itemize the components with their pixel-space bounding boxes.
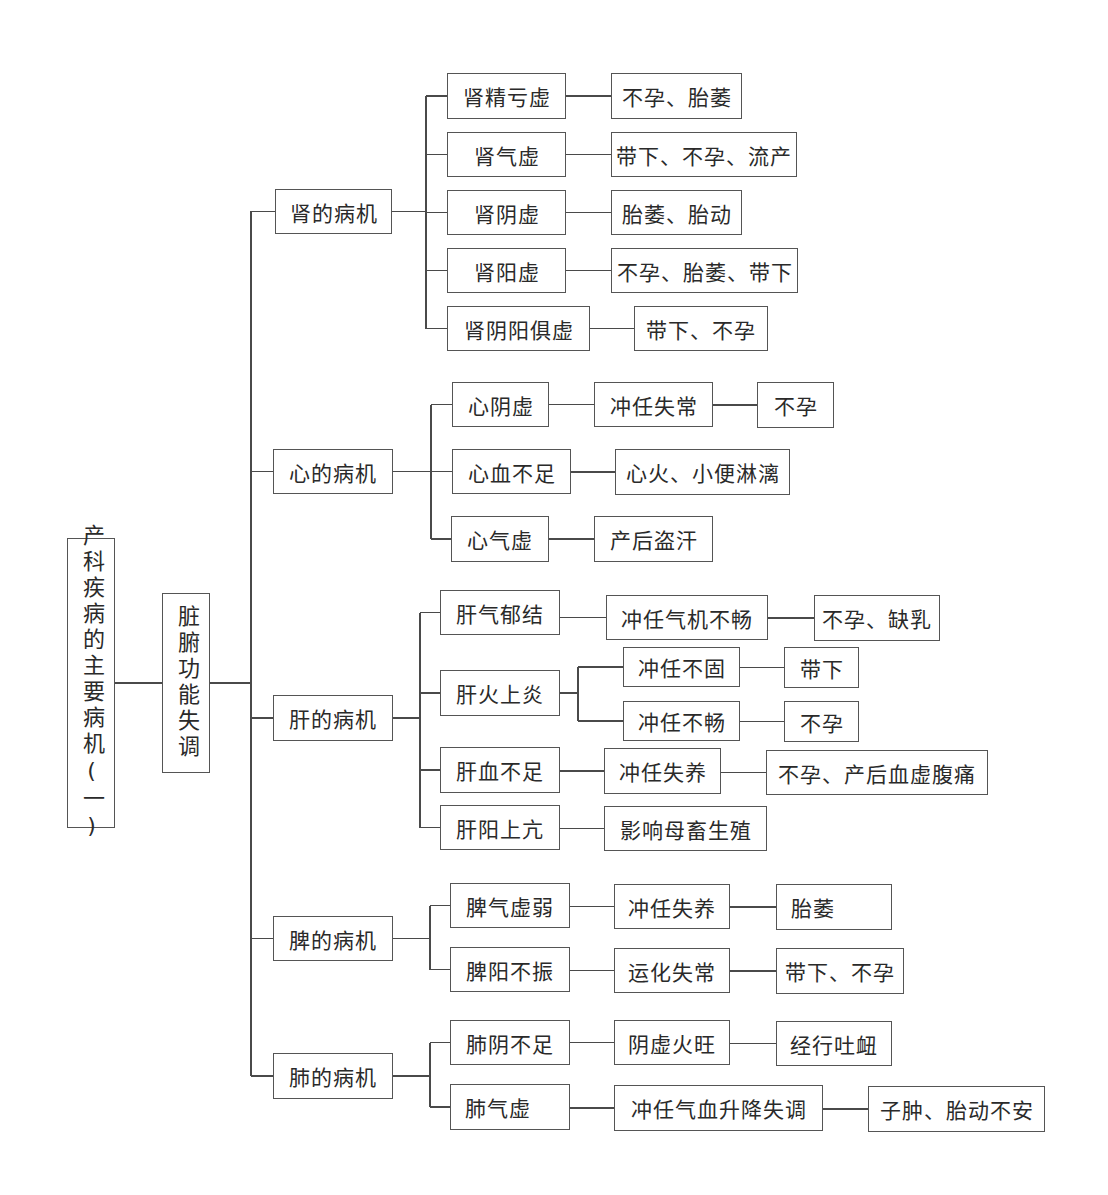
organ-connector-line — [251, 1075, 273, 1077]
organ-fork-connector — [393, 1075, 430, 1077]
organ-fork-line — [419, 613, 421, 828]
mechanism-node: 肺阴不足 — [450, 1020, 570, 1065]
outcome-node: 胎萎 — [776, 884, 892, 930]
mechanism-connector-line — [426, 328, 447, 330]
outcome-node: 冲任失养 — [604, 748, 721, 794]
chain-connector-line — [730, 970, 776, 972]
chain-connector-line — [721, 772, 766, 774]
outcome-node: 不孕、缺乳 — [814, 595, 940, 641]
branch-node: 冲任不畅 — [623, 701, 740, 741]
mechanism-connector-line — [426, 212, 447, 214]
outcome-node: 影响母畜生殖 — [604, 806, 767, 851]
mechanism-node: 心血不足 — [452, 449, 571, 494]
chain-connector-line — [740, 721, 784, 723]
organ-node: 心的病机 — [273, 449, 393, 494]
chain-connector-line — [566, 95, 611, 97]
organ-connector-line — [251, 471, 273, 473]
chain-connector-line — [570, 1042, 614, 1044]
chain-connector-line — [590, 328, 634, 330]
organ-fork-connector — [393, 717, 420, 719]
mechanism-node: 肝阳上亢 — [440, 805, 560, 850]
organ-connector-line — [251, 938, 273, 940]
mechanism-node: 脾气虚弱 — [450, 883, 570, 928]
chain-connector-line — [823, 1108, 868, 1110]
outcome-node: 不孕、产后血虚腹痛 — [766, 750, 988, 795]
chain-connector-line — [740, 667, 784, 669]
outcome-node: 不孕 — [757, 382, 834, 428]
mechanism-connector-line — [430, 1106, 450, 1108]
outcome-node: 带下、不孕 — [634, 306, 768, 351]
outcome-node: 阴虚火旺 — [614, 1020, 730, 1065]
outcome-node: 产后盗汗 — [594, 516, 713, 562]
root-connector-line — [115, 682, 162, 684]
outcome-node: 带下、不孕 — [776, 948, 904, 994]
mechanism-connector-line — [420, 612, 440, 614]
organ-fork-connector — [392, 211, 426, 213]
mechanism-node: 肝血不足 — [440, 747, 560, 793]
branch-connector-line — [578, 666, 623, 668]
mechanism-connector-line — [420, 827, 440, 829]
mechanism-node: 肝火上炎 — [440, 670, 560, 716]
mechanism-connector-line — [430, 969, 450, 971]
organ-fork-connector — [393, 471, 431, 473]
mechanism-node: 肾气虚 — [447, 132, 566, 177]
branch-connector-line — [578, 720, 623, 722]
chain-connector-line — [566, 154, 611, 156]
chain-connector-line — [730, 906, 776, 908]
organ-connector-line — [251, 211, 275, 213]
outcome-node: 经行吐衄 — [776, 1021, 892, 1066]
outcome-node: 子肿、胎动不安 — [868, 1086, 1045, 1132]
trunk-connector-line — [210, 682, 251, 684]
chain-connector-line — [566, 212, 611, 214]
organ-node: 肺的病机 — [273, 1053, 393, 1099]
mechanism-connector-line — [420, 692, 440, 694]
chain-connector-line — [566, 270, 611, 272]
subfork-line — [577, 667, 579, 721]
outcome-node: 冲任气血升降失调 — [614, 1085, 823, 1131]
pathogenesis-tree-diagram: 产科疾病的主要病机(一) 脏腑功能失调 肾的病机肾精亏虚不孕、胎萎肾气虚带下、不… — [0, 0, 1108, 1195]
outcome-node: 心火、小便淋漓 — [615, 449, 790, 495]
outcome-node: 胎萎、胎动 — [611, 190, 742, 235]
mechanism-node: 脾阳不振 — [450, 947, 570, 992]
mechanism-node: 心气虚 — [451, 516, 549, 562]
chain-connector-line — [768, 617, 814, 619]
outcome-node: 带下 — [784, 647, 859, 688]
mechanism-node: 肝气郁结 — [440, 590, 560, 635]
mechanism-node: 肾阴虚 — [447, 190, 566, 235]
mechanism-connector-line — [426, 95, 447, 97]
mechanism-node: 肾阳虚 — [447, 248, 566, 293]
mechanism-node: 肺气虚 — [450, 1084, 570, 1130]
outcome-node: 冲任失养 — [614, 884, 730, 929]
outcome-node: 不孕、胎萎 — [611, 73, 742, 119]
mechanism-connector-line — [420, 769, 440, 771]
organ-node: 脾的病机 — [273, 916, 393, 961]
subfork-connector — [560, 692, 578, 694]
organ-node: 肝的病机 — [273, 695, 393, 741]
chain-connector-line — [570, 1107, 614, 1109]
root-node: 产科疾病的主要病机(一) — [67, 538, 115, 828]
outcome-node: 不孕 — [784, 701, 859, 742]
chain-connector-line — [570, 970, 614, 972]
outcome-node: 不孕、胎萎、带下 — [611, 248, 798, 293]
outcome-node: 冲任气机不畅 — [606, 595, 768, 640]
chain-connector-line — [571, 471, 615, 473]
organ-connector-line — [251, 717, 273, 719]
mechanism-node: 肾精亏虚 — [447, 73, 566, 119]
chain-connector-line — [730, 1043, 776, 1045]
mechanism-connector-line — [430, 1042, 450, 1044]
chain-connector-line — [560, 770, 604, 772]
mechanism-node: 肾阴阳俱虚 — [447, 306, 590, 351]
outcome-node: 带下、不孕、流产 — [611, 132, 797, 177]
chain-connector-line — [560, 617, 606, 619]
mechanism-connector-line — [430, 905, 450, 907]
mechanism-node: 心阴虚 — [452, 382, 549, 427]
outcome-node: 冲任失常 — [594, 382, 713, 427]
mechanism-connector-line — [426, 154, 447, 156]
mechanism-connector-line — [426, 270, 447, 272]
organ-node: 肾的病机 — [275, 189, 392, 234]
chain-connector-line — [549, 538, 594, 540]
chain-connector-line — [570, 906, 614, 908]
chain-connector-line — [713, 404, 757, 406]
organ-fork-connector — [393, 938, 430, 940]
mechanism-connector-line — [431, 471, 452, 473]
